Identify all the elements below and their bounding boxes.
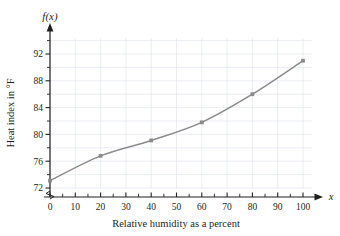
- x-tick-label: 90: [273, 202, 283, 212]
- plot-background: [50, 38, 312, 188]
- y-tick-label: 76: [34, 157, 44, 167]
- y-axis-title: Heat index in °F: [5, 78, 16, 147]
- x-tick-label: 10: [71, 202, 81, 212]
- y-tick-label: 80: [34, 130, 44, 140]
- x-tick-label: 0: [48, 202, 53, 212]
- x-tick-label: 60: [197, 202, 207, 212]
- x-axis-tick-labels: 0 10 20 30 40 50 60 70 80 90 100: [48, 202, 311, 212]
- x-tick-label: 40: [146, 202, 156, 212]
- data-point: [200, 120, 204, 124]
- y-tick-label: 88: [34, 76, 44, 86]
- x-tick-label: 50: [172, 202, 182, 212]
- y-axis-tick-labels: 72 76 80 84 88 92: [34, 49, 44, 193]
- heat-index-line-chart: 72 76 80 84 88 92 f(x) Heat index in °F: [0, 0, 340, 236]
- y-tick-label: 84: [34, 103, 44, 113]
- x-axis: [44, 194, 323, 201]
- y-tick-label: 92: [34, 49, 44, 59]
- data-point: [301, 59, 305, 63]
- chart-figure: 72 76 80 84 88 92 f(x) Heat index in °F: [0, 0, 340, 236]
- y-axis-arrowhead: [47, 23, 54, 32]
- x-tick-label: 80: [248, 202, 258, 212]
- data-point: [251, 92, 255, 96]
- data-point: [149, 139, 153, 143]
- x-tick-label: 30: [121, 202, 131, 212]
- x-tick-label: 20: [96, 202, 106, 212]
- data-point: [48, 179, 52, 183]
- x-axis-variable-label: x: [328, 191, 334, 202]
- y-tick-label: 72: [34, 183, 44, 193]
- data-point: [99, 154, 103, 158]
- y-axis-variable-label: f(x): [42, 10, 58, 23]
- x-tick-label: 70: [222, 202, 232, 212]
- x-axis-title: Relative humidity as a percent: [112, 218, 240, 229]
- x-tick-label: 100: [296, 202, 311, 212]
- x-axis-arrowhead: [315, 194, 324, 201]
